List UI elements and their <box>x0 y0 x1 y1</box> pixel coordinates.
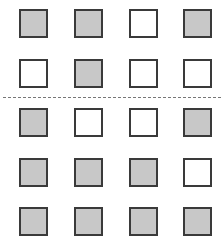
square-filled-r4c1 <box>19 158 48 187</box>
square-filled-r2c2 <box>74 59 103 88</box>
square-empty-r2c4 <box>183 59 212 88</box>
square-filled-r1c1 <box>19 9 48 38</box>
square-empty-r1c3 <box>129 9 158 38</box>
square-empty-r3c2 <box>74 108 103 137</box>
square-filled-r1c4 <box>183 9 212 38</box>
square-filled-r3c4 <box>183 108 212 137</box>
square-empty-r3c3 <box>129 108 158 137</box>
square-empty-r2c1 <box>19 59 48 88</box>
square-filled-r5c1 <box>19 207 48 236</box>
dashed-divider <box>3 97 221 98</box>
square-filled-r5c3 <box>129 207 158 236</box>
square-empty-r4c4 <box>183 158 212 187</box>
square-filled-r1c2 <box>74 9 103 38</box>
square-empty-r2c3 <box>129 59 158 88</box>
square-grid <box>0 0 223 245</box>
square-filled-r4c2 <box>74 158 103 187</box>
square-filled-r5c4 <box>183 207 212 236</box>
square-filled-r5c2 <box>74 207 103 236</box>
square-filled-r3c1 <box>19 108 48 137</box>
square-filled-r4c3 <box>129 158 158 187</box>
